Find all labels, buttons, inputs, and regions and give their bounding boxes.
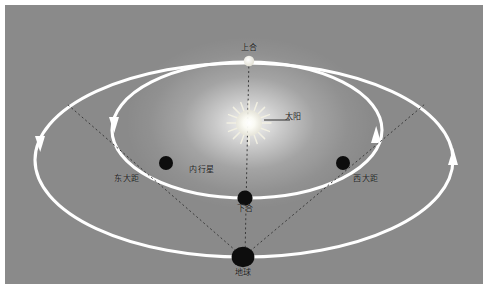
earth-body [232, 247, 255, 267]
inner-orbit-arrow-right-icon [371, 126, 381, 143]
sun-label: 太阳 [285, 112, 302, 121]
conjunction-sightline [245, 57, 249, 257]
inferior-conjunction-label: 下合 [237, 204, 254, 213]
superior-conjunction-planet-body [244, 56, 254, 66]
superior-conjunction-label: 上合 [241, 43, 258, 52]
earth-label: 地球 [235, 268, 252, 277]
greatest-western-elongation-label: 西大距 [353, 174, 378, 183]
greatest-western-elongation-planet-body [336, 156, 350, 170]
earth-orbit-path [35, 63, 453, 257]
inner-planet-label: 内行星 [189, 165, 214, 174]
sun-body [236, 110, 262, 136]
earth-orbit-arrow-right-icon [448, 148, 458, 165]
greatest-eastern-elongation-planet-body [159, 156, 173, 170]
diagram-figure: 太阳 上合 东大距 西大距 内行星 下合 地球 [0, 0, 488, 289]
diagram-panel: 太阳 上合 东大距 西大距 内行星 下合 地球 [5, 5, 483, 284]
eastern-elongation-sightline [67, 104, 243, 257]
greatest-eastern-elongation-label: 东大距 [114, 174, 139, 183]
